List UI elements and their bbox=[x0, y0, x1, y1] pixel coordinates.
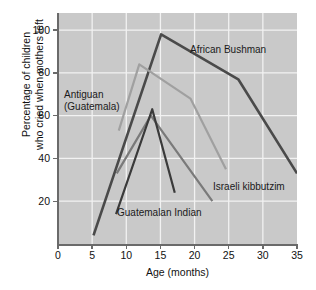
series-line-african-bushman bbox=[94, 34, 297, 235]
x-tick-label: 5 bbox=[80, 250, 104, 261]
x-tick-label: 30 bbox=[251, 250, 275, 261]
annotation-antiguan-line1: Antiguan bbox=[64, 89, 120, 101]
annotation-african-bushman: African Bushman bbox=[190, 44, 266, 56]
x-tick-label: 35 bbox=[285, 250, 309, 261]
y-axis-title-line1: Percentage of children bbox=[20, 0, 33, 180]
y-tick bbox=[53, 115, 57, 116]
y-axis-title: Percentage of children who cried when mo… bbox=[20, 0, 45, 180]
chart-figure: 2040608010005101520253035 Percentage of … bbox=[0, 0, 316, 290]
annotation-israeli-kibbutzim: Israeli kibbutzim bbox=[213, 181, 285, 193]
annotation-guatemalan-indian: Guatemalan Indian bbox=[117, 207, 202, 219]
y-axis-line bbox=[57, 13, 59, 245]
y-tick bbox=[53, 72, 57, 73]
x-tick-label: 25 bbox=[217, 250, 241, 261]
annotation-antiguan-line2: (Guatemala) bbox=[64, 101, 120, 113]
y-tick-label: 20 bbox=[0, 196, 50, 206]
series-line-antiguan-guatemala bbox=[119, 64, 226, 169]
x-tick-label: 0 bbox=[46, 250, 70, 261]
x-axis-title: Age (months) bbox=[58, 266, 297, 278]
y-axis-title-line2: who cried when mothers left bbox=[32, 0, 45, 180]
x-tick-label: 15 bbox=[148, 250, 172, 261]
y-tick bbox=[53, 29, 57, 30]
y-tick bbox=[53, 201, 57, 202]
y-tick bbox=[53, 158, 57, 159]
annotation-antiguan-guatemala: Antiguan (Guatemala) bbox=[64, 89, 120, 112]
x-tick-label: 20 bbox=[183, 250, 207, 261]
x-tick-label: 10 bbox=[114, 250, 138, 261]
